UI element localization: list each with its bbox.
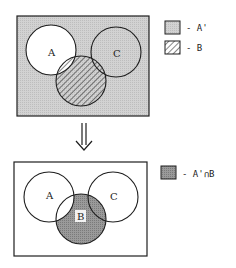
double-down-arrow-icon bbox=[76, 123, 92, 150]
legend-label-b: - B bbox=[186, 43, 202, 53]
top-legend: - A' - B bbox=[165, 21, 208, 54]
bottom-label-b: B bbox=[77, 211, 84, 222]
venn-diagram-figure: A C - A' - B A C B - A'∩B bbox=[0, 0, 236, 268]
bottom-venn-diagram: A C B bbox=[14, 162, 147, 256]
top-venn-diagram: A C bbox=[17, 16, 149, 116]
bottom-label-a: A bbox=[45, 190, 54, 201]
legend-swatch-a-complement bbox=[165, 21, 180, 34]
legend-swatch-b bbox=[165, 41, 180, 54]
bottom-legend: - A'∩B bbox=[161, 166, 215, 179]
legend-swatch-a-complement-intersect-b bbox=[161, 166, 176, 179]
top-label-a: A bbox=[47, 47, 56, 58]
legend-label-a-complement: - A' bbox=[186, 23, 208, 33]
bottom-label-c: C bbox=[110, 191, 118, 202]
legend-label-a-complement-intersect-b: - A'∩B bbox=[182, 169, 215, 179]
top-label-c: C bbox=[113, 48, 121, 59]
